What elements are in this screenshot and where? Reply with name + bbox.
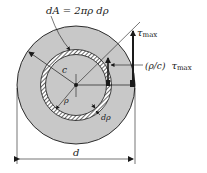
rho-label: ρ [63, 96, 69, 105]
radius-c-label: c [62, 65, 67, 75]
rho-over-c-label: (ρ/c) τmax [145, 55, 192, 72]
diameter-label: d [73, 147, 79, 158]
d-rho-label: dρ [101, 113, 111, 122]
torsion-shaft-diagram: dA = 2πρ dρ τmax (ρ/c) τmax c ρ dρ d [0, 0, 207, 173]
tau-max-label-top: τmax [137, 27, 157, 39]
area-element-label: dA = 2πρ dρ [46, 5, 109, 16]
